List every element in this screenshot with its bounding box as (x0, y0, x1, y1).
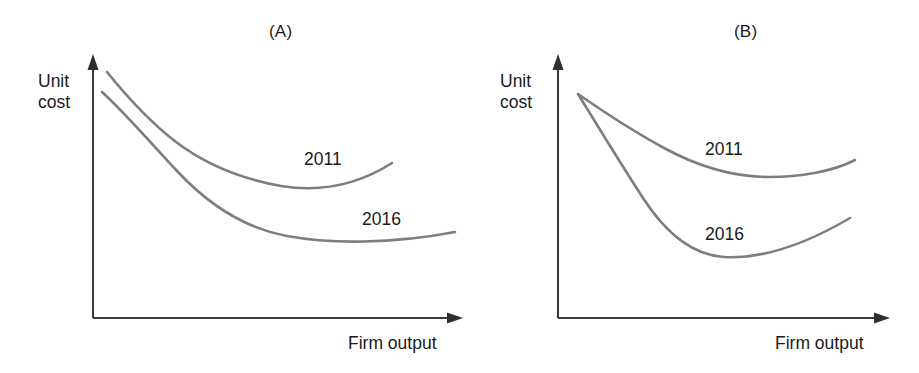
panel-a-label-2016: 2016 (362, 209, 401, 230)
panel-a-curve-2011 (107, 72, 392, 188)
panel-b: (B) Unit cost 2011 2016 Firm output (459, 0, 919, 373)
panel-a-plot (0, 0, 470, 373)
panel-b-x-axis-arrowhead (874, 313, 890, 324)
figure-container: (A) Unit cost 2011 2016 Firm output (B) … (0, 0, 919, 373)
panel-b-label-2016: 2016 (705, 224, 744, 245)
panel-b-plot (459, 0, 919, 373)
panel-a-y-axis-arrowhead (88, 54, 99, 70)
panel-a-curve-2016 (102, 92, 455, 242)
panel-a-x-axis-label: Firm output (348, 333, 437, 354)
panel-a: (A) Unit cost 2011 2016 Firm output (0, 0, 470, 373)
panel-a-label-2011: 2011 (304, 149, 342, 170)
panel-b-x-axis-label: Firm output (775, 333, 864, 354)
panel-b-label-2011: 2011 (705, 139, 743, 160)
panel-b-curve-2011 (578, 94, 855, 177)
panel-b-y-axis-arrowhead (553, 54, 564, 70)
